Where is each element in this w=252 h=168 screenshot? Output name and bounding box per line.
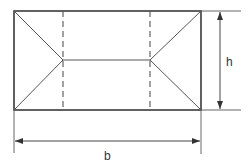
hip-line-top-right (150, 11, 201, 60)
hip-line-top-left (14, 11, 63, 60)
roof-plan-diagram: h b (0, 0, 252, 168)
width-label: b (104, 149, 111, 163)
height-label: h (226, 55, 233, 69)
hip-line-bottom-right (150, 60, 201, 110)
hip-line-bottom-left (14, 60, 63, 110)
